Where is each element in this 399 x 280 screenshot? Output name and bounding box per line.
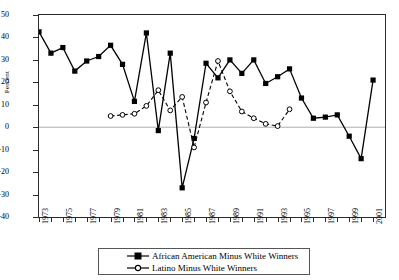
x-tick-label: 1975: [66, 208, 74, 224]
x-tick-mark: [63, 218, 64, 222]
plot-area: [38, 14, 386, 218]
data-point-marker-square: [311, 116, 316, 121]
legend-item-latino: Latino Minus White Winners: [127, 262, 257, 274]
data-point-marker-square: [96, 54, 101, 59]
series-line-0: [39, 32, 373, 188]
x-tick-mark: [51, 218, 52, 222]
x-tick-label: 1993: [281, 208, 289, 224]
x-tick-mark: [242, 218, 243, 222]
legend-label-african-american: African American Minus White Winners: [152, 251, 298, 261]
legend-label-latino: Latino Minus White Winners: [152, 263, 257, 273]
data-point-marker-circle: [156, 88, 161, 93]
data-point-marker-square: [275, 74, 280, 79]
data-point-marker-square: [227, 57, 232, 62]
x-tick-label: 1991: [257, 208, 265, 224]
data-point-marker-circle: [108, 114, 113, 119]
x-tick-label: 1999: [352, 208, 360, 224]
x-tick-mark: [361, 218, 362, 222]
x-tick-mark: [313, 218, 314, 222]
y-tick-mark: [33, 82, 38, 83]
x-tick-mark: [266, 218, 267, 222]
chart-figure: Percent 50403020100-10-20-30-40 19731975…: [0, 0, 399, 280]
data-point-marker-circle: [204, 100, 209, 105]
data-point-marker-square: [251, 57, 256, 62]
data-point-marker-square: [215, 75, 220, 80]
x-tick-label: 1979: [114, 208, 122, 224]
x-tick-label: 1973: [42, 208, 50, 224]
data-point-marker-square: [39, 29, 42, 34]
data-point-marker-circle: [228, 89, 233, 94]
y-tick-mark: [33, 127, 38, 128]
x-tick-mark: [99, 218, 100, 222]
x-tick-mark: [75, 218, 76, 222]
data-point-marker-square: [180, 185, 185, 190]
x-tick-mark: [194, 218, 195, 222]
data-point-marker-circle: [275, 124, 280, 129]
y-tick-mark: [33, 60, 38, 61]
data-point-marker-square: [299, 95, 304, 100]
y-tick-label: -10: [0, 146, 9, 154]
data-point-marker-square: [287, 66, 292, 71]
data-point-marker-circle: [132, 111, 137, 116]
x-tick-mark: [39, 218, 40, 222]
x-tick-mark: [373, 218, 374, 222]
data-point-marker-square: [239, 71, 244, 76]
x-tick-mark: [146, 218, 147, 222]
data-point-marker-circle: [168, 108, 173, 113]
data-point-marker-square: [335, 112, 340, 117]
x-tick-mark: [87, 218, 88, 222]
data-point-marker-square: [48, 51, 53, 56]
legend-item-african-american: African American Minus White Winners: [127, 250, 298, 262]
y-tick-label: 0: [0, 123, 9, 131]
data-point-marker-circle: [287, 107, 292, 112]
y-tick-mark: [33, 37, 38, 38]
legend-marker-filled-square: [127, 251, 149, 261]
x-tick-mark: [337, 218, 338, 222]
data-point-marker-square: [60, 45, 65, 50]
data-point-marker-circle: [120, 112, 125, 117]
x-tick-mark: [111, 218, 112, 222]
data-point-marker-square: [72, 69, 77, 74]
x-tick-label: 1981: [137, 208, 145, 224]
x-tick-label: 1997: [328, 208, 336, 224]
y-tick-label: -20: [0, 168, 9, 176]
y-tick-label: 40: [0, 33, 9, 41]
data-point-marker-circle: [180, 95, 185, 100]
data-point-marker-square: [108, 43, 113, 48]
x-tick-label: 1977: [90, 208, 98, 224]
data-point-marker-circle: [239, 109, 244, 114]
x-tick-mark: [278, 218, 279, 222]
x-tick-mark: [254, 218, 255, 222]
data-point-marker-circle: [263, 121, 268, 126]
data-point-marker-square: [84, 58, 89, 63]
data-point-marker-square: [156, 128, 161, 133]
x-tick-mark: [230, 218, 231, 222]
data-point-marker-square: [263, 81, 268, 86]
data-point-marker-square: [359, 156, 364, 161]
x-tick-mark: [170, 218, 171, 222]
chart-legend: African American Minus White Winners Lat…: [98, 248, 310, 275]
y-tick-label: -40: [0, 213, 9, 221]
data-point-marker-square: [132, 99, 137, 104]
x-tick-mark: [290, 218, 291, 222]
data-point-marker-circle: [216, 59, 221, 64]
y-tick-mark: [33, 195, 38, 196]
y-tick-mark: [33, 217, 38, 218]
x-tick-mark: [206, 218, 207, 222]
y-tick-label: 10: [0, 101, 9, 109]
x-tick-label: 1983: [161, 208, 169, 224]
data-point-marker-square: [120, 62, 125, 67]
data-point-marker-circle: [192, 145, 197, 150]
x-tick-mark: [218, 218, 219, 222]
plot-lines-svg: [39, 15, 385, 217]
data-point-marker-circle: [144, 104, 149, 109]
y-tick-mark: [33, 15, 38, 16]
data-point-marker-square: [347, 134, 352, 139]
data-point-marker-square: [370, 77, 375, 82]
data-point-marker-square: [144, 30, 149, 35]
y-tick-label: -30: [0, 191, 9, 199]
x-tick-label: 1989: [233, 208, 241, 224]
y-tick-mark: [33, 150, 38, 151]
y-tick-mark: [33, 105, 38, 106]
legend-marker-open-circle: [127, 263, 149, 273]
